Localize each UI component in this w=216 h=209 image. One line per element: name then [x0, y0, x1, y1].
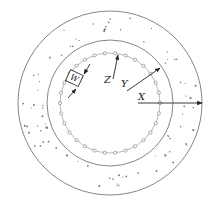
ring-marker: [142, 64, 145, 67]
scatter-point: [143, 41, 144, 42]
w-arrow-upper: [84, 64, 90, 74]
scatter-point: [169, 151, 171, 153]
scatter-point: [26, 126, 28, 128]
concentric-ring-diagram: W Z Y X: [0, 0, 216, 209]
annulus-scatter-points: [22, 17, 196, 187]
scatter-point: [109, 177, 111, 179]
ring-marker: [114, 151, 117, 154]
scatter-point: [172, 162, 174, 164]
scatter-point: [185, 83, 186, 84]
scatter-point: [48, 141, 50, 143]
ring-marker: [114, 52, 117, 55]
scatter-point: [61, 54, 62, 55]
ring-marker: [103, 151, 106, 154]
ring-marker: [142, 139, 145, 142]
z-arrow: [113, 55, 118, 79]
ring-marker: [60, 112, 63, 115]
scatter-point: [98, 185, 100, 187]
scatter-point: [22, 103, 24, 105]
scatter-point: [155, 155, 156, 156]
scatter-point: [63, 30, 64, 31]
scatter-point: [169, 138, 171, 140]
scatter-point: [33, 104, 35, 106]
scatter-point: [77, 161, 78, 162]
scatter-point: [37, 126, 38, 127]
ring-marker: [133, 145, 136, 148]
scatter-point: [183, 105, 185, 107]
scatter-point: [180, 82, 182, 84]
scatter-point: [40, 130, 42, 132]
scatter-point: [117, 184, 118, 185]
scatter-point: [110, 18, 112, 20]
scatter-point: [49, 57, 51, 59]
scatter-point: [46, 127, 48, 129]
ring-marker: [93, 54, 96, 57]
ring-marker: [63, 81, 66, 84]
scatter-point: [78, 40, 79, 41]
scatter-point: [174, 59, 176, 61]
ring-marker: [154, 81, 157, 84]
scatter-point: [40, 145, 42, 147]
scatter-point: [39, 81, 40, 82]
scatter-point: [193, 107, 195, 109]
ring-marker: [60, 91, 63, 94]
scatter-point: [182, 113, 183, 114]
ring-marker: [154, 122, 157, 125]
scatter-point: [151, 28, 152, 29]
scatter-point: [108, 21, 110, 23]
ring-marker: [68, 131, 71, 134]
scatter-point: [31, 107, 32, 108]
scatter-point: [33, 75, 34, 76]
scatter-point: [118, 174, 120, 176]
scatter-point: [75, 39, 76, 40]
scatter-point: [168, 136, 169, 137]
scatter-point: [112, 178, 114, 180]
scatter-point: [195, 85, 197, 87]
ring-marker: [103, 52, 106, 55]
ring-marker: [93, 149, 96, 152]
scatter-point: [42, 141, 44, 143]
ring-marker: [63, 122, 66, 125]
z-label: Z: [103, 74, 112, 85]
scatter-point: [42, 107, 43, 108]
scatter-point: [24, 125, 26, 127]
scatter-point: [122, 176, 123, 177]
ring-marker: [124, 149, 127, 152]
w-arrow-lower: [68, 89, 76, 98]
scatter-point: [28, 132, 30, 134]
y-label: Y: [121, 78, 129, 89]
scatter-point: [34, 145, 36, 147]
scatter-point: [156, 170, 158, 172]
scatter-point: [93, 23, 94, 24]
y-arrow: [127, 68, 160, 91]
scatter-point: [190, 98, 191, 99]
x-label: X: [137, 91, 146, 102]
scatter-point: [180, 126, 182, 128]
scatter-point: [116, 185, 117, 186]
ring-marker: [149, 131, 152, 134]
scatter-point: [42, 105, 43, 106]
scatter-point: [55, 147, 57, 149]
scatter-point: [137, 172, 139, 174]
scatter-point: [165, 62, 166, 63]
ring-marker: [83, 58, 86, 61]
scatter-point: [45, 123, 46, 124]
scatter-point: [72, 46, 74, 48]
scatter-point: [37, 90, 38, 91]
scatter-point: [192, 129, 194, 131]
scatter-point: [129, 17, 131, 19]
ring-marker: [157, 112, 160, 115]
scatter-point: [185, 95, 186, 96]
scatter-point: [120, 29, 121, 30]
ring-marker: [75, 139, 78, 142]
scatter-point: [164, 154, 166, 156]
scatter-point: [125, 175, 127, 177]
scatter-point: [167, 51, 168, 52]
ring-marker: [75, 64, 78, 67]
scatter-point: [70, 46, 71, 47]
scatter-point: [38, 74, 39, 75]
ring-marker: [157, 91, 160, 94]
scatter-point: [104, 28, 106, 30]
scatter-point: [176, 59, 177, 60]
scatter-point: [118, 185, 119, 186]
